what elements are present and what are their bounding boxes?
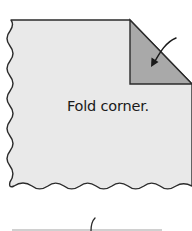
fold-corner-diagram: Fold corner. xyxy=(0,0,192,231)
next-step-preview xyxy=(12,218,162,231)
caption-text: Fold corner. xyxy=(40,98,176,114)
